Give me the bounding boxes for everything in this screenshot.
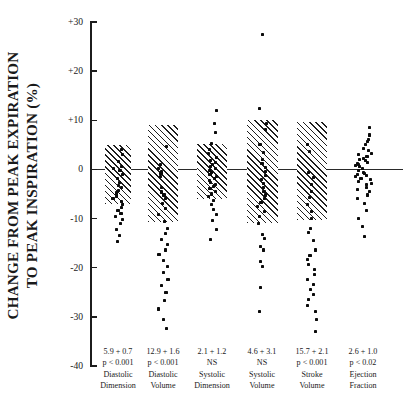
data-point <box>370 152 373 155</box>
y-axis-tick--10 <box>90 218 97 220</box>
data-point <box>210 203 213 206</box>
data-point <box>166 227 169 230</box>
data-point <box>313 273 316 276</box>
data-point <box>307 298 310 301</box>
data-point <box>264 166 267 169</box>
y-axis-tick--30 <box>90 316 97 318</box>
data-point <box>365 155 368 158</box>
data-point <box>354 175 357 178</box>
data-point <box>160 284 163 287</box>
data-point <box>307 231 310 234</box>
data-point <box>368 126 371 129</box>
data-point <box>212 208 215 211</box>
data-point <box>261 233 264 236</box>
data-point <box>264 128 267 131</box>
data-point <box>370 182 373 185</box>
data-point <box>258 107 261 110</box>
data-point <box>166 265 169 268</box>
data-point <box>120 165 123 168</box>
data-point <box>258 215 261 218</box>
data-point <box>157 253 160 256</box>
data-point <box>312 293 315 296</box>
data-point <box>361 225 364 228</box>
y-axis-tick-label-+30: +30 <box>39 16 83 27</box>
data-point <box>159 163 162 166</box>
data-point <box>121 153 124 156</box>
data-point <box>258 310 261 313</box>
y-axis-spine <box>90 22 92 366</box>
data-point <box>314 248 317 251</box>
data-point <box>261 265 264 268</box>
data-point <box>163 220 166 223</box>
data-point <box>259 201 262 204</box>
data-point <box>214 161 217 164</box>
data-point <box>164 207 167 210</box>
data-point <box>209 238 212 241</box>
data-point <box>262 248 265 251</box>
data-point <box>308 150 311 153</box>
data-point <box>361 167 364 170</box>
data-point <box>357 180 360 183</box>
data-point <box>307 263 310 266</box>
data-point <box>357 153 360 156</box>
data-point <box>309 227 312 230</box>
data-point <box>157 213 160 216</box>
data-point <box>208 148 211 151</box>
data-point <box>162 259 165 262</box>
y-axis-tick-0 <box>90 169 97 171</box>
data-point <box>215 109 218 112</box>
data-point <box>120 206 123 209</box>
data-point <box>362 147 365 150</box>
data-point <box>120 186 123 189</box>
data-point <box>315 318 318 321</box>
data-point <box>262 182 265 185</box>
data-point <box>265 122 268 125</box>
data-point <box>165 327 168 330</box>
data-point <box>115 228 118 231</box>
data-point <box>261 33 264 36</box>
data-point <box>164 232 167 235</box>
data-point <box>368 190 371 193</box>
data-point <box>264 174 267 177</box>
data-point <box>215 213 218 216</box>
data-point <box>263 237 266 240</box>
data-point <box>260 162 263 165</box>
data-point <box>112 167 115 170</box>
data-point <box>209 159 212 162</box>
data-point <box>259 260 262 263</box>
data-point <box>215 156 218 159</box>
stat-name-line-2: Fraction <box>330 380 396 391</box>
data-point <box>309 288 312 291</box>
data-point <box>314 310 317 313</box>
data-point <box>312 239 315 242</box>
data-point <box>368 133 371 136</box>
data-point <box>258 143 261 146</box>
y-axis-tick--20 <box>90 267 97 269</box>
data-point <box>369 178 372 181</box>
data-point <box>365 186 368 189</box>
data-point <box>121 218 124 221</box>
y-axis-title-line-2: TO PEAK INSPIRATION (%) <box>23 52 42 320</box>
data-point <box>213 122 216 125</box>
stat-p-value: p < 0.02 <box>330 357 396 368</box>
data-point <box>260 178 263 181</box>
data-point <box>208 187 211 190</box>
y-axis-title-line-1: CHANGE FROM PEAK EXPIRATION <box>4 52 23 320</box>
data-point <box>262 186 265 189</box>
data-point <box>306 203 309 206</box>
data-point <box>119 222 122 225</box>
data-point <box>310 217 313 220</box>
data-point <box>307 171 310 174</box>
data-point <box>357 169 360 172</box>
data-point <box>308 254 311 257</box>
data-point <box>164 291 167 294</box>
data-point <box>163 299 166 302</box>
data-point <box>310 183 313 186</box>
data-point <box>162 193 165 196</box>
data-point <box>166 243 169 246</box>
data-point <box>366 193 369 196</box>
data-point <box>214 131 217 134</box>
data-point <box>256 205 259 208</box>
data-point <box>210 192 213 195</box>
data-point <box>215 228 218 231</box>
